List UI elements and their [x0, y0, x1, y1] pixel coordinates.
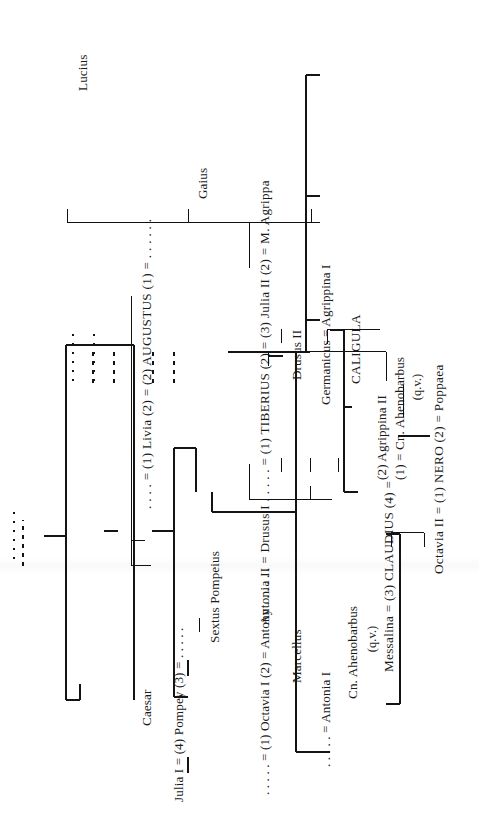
- connector-dotted-augustus-a: [92, 351, 94, 383]
- connector-drusus-ii-tick: [281, 329, 282, 343]
- node-sextus-pompeius: Sextus Pompeius: [208, 551, 222, 643]
- node-gaius: Gaius: [196, 168, 210, 199]
- connector-ancestor-spine: [131, 296, 132, 566]
- connector-claudius-children-spine: [391, 532, 424, 533]
- paper-fold-shadow: [0, 0, 479, 824]
- connector-pompey-to-sextus: [199, 618, 200, 632]
- connector-agrippa-children-spine: [67, 222, 320, 223]
- connector-claudius-to-octavia-ii: [424, 533, 425, 547]
- node-messalina-claudius: Messalina = (3) CLAUDIUS (4) =: [382, 481, 396, 672]
- connector-antony-children-spine: [249, 499, 332, 500]
- node-octavia-ii-nero: Octavia II = (1) NERO (2) = Poppaea: [432, 364, 446, 574]
- connector-antonia-i-tick: [310, 458, 311, 472]
- node-cn-ahenobarbus-left-qv: (q.v.): [366, 626, 379, 653]
- connector-dotted-augustus-b: [113, 351, 115, 383]
- connector-antony-to-octavia: [249, 464, 250, 500]
- node-marcellus: Marcellus: [290, 629, 304, 683]
- connector-dotted-augustus-c: [152, 351, 154, 383]
- connector-agrippa-to-lucius: [67, 209, 68, 223]
- connector-caesar-drop: [131, 565, 151, 566]
- connector-drusus-to-claudius: [386, 352, 387, 381]
- connector-ahenobarbus-left-tick: [338, 458, 339, 472]
- node-antonia-i: . . . . . = Antonia I: [319, 672, 333, 767]
- node-agrippina-ii: (2) Agrippina II: [375, 395, 389, 480]
- connector-germanicus-children-spine: [327, 329, 380, 330]
- node-julia-i-pompey: Julia I = (4) Pompey (3) = . . . . .: [172, 627, 186, 802]
- node-drusus-ii: Drusus II: [290, 330, 304, 380]
- family-tree-chart: Caesar Julia I = (4) Pompey (3) = . . . …: [0, 0, 479, 824]
- connector-agrippa-to-agrippina-i: [311, 209, 312, 223]
- connector-agrippa-stem: [249, 222, 250, 268]
- connector-germanicus-stem: [327, 330, 328, 344]
- connector-ahenobarbus-to-nero: [403, 385, 404, 417]
- node-caesar: Caesar: [140, 690, 154, 726]
- connector-dotted-augustus-d: [173, 351, 175, 383]
- node-lucius: Lucius: [76, 55, 90, 92]
- connector-marcellus-tick: [281, 458, 282, 472]
- node-cn-ahenobarbus-right: (1) = Cn. Ahenobarbus: [393, 357, 407, 480]
- connector-caesar-tick: [131, 540, 145, 541]
- node-cn-ahenobarbus-left: Cn. Ahenobarbus: [346, 606, 360, 699]
- connector-agrippa-to-gaius: [188, 209, 189, 223]
- connector-drusus-children-spine: [268, 351, 386, 352]
- rotated-canvas: Caesar Julia I = (4) Pompey (3) = . . . …: [0, 0, 479, 824]
- node-germanicus-agrippina-i: Germanicus = Agrippina I: [319, 264, 333, 405]
- node-antonia-ii-drusus-tiberius: Antonia II = Drusus I . . . . . = (1) TI…: [258, 180, 272, 625]
- connector-antony-to-antonia-i: [310, 486, 311, 500]
- connector-drusus-to-germanicus: [268, 352, 269, 366]
- genealogy-page: Caesar Julia I = (4) Pompey (3) = . . . …: [0, 0, 479, 824]
- node-caligula: CALIGULA: [349, 314, 363, 384]
- connector-claudius-stem: [391, 533, 392, 547]
- node-cn-ahenobarbus-right-qv: (q.v.): [411, 374, 424, 401]
- connector-dotted-ancestor-left: [22, 520, 24, 566]
